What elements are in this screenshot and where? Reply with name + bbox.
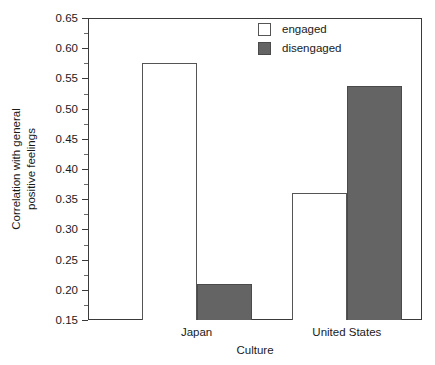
bar-japan-disengaged [197,284,252,320]
bar-japan-engaged [142,63,197,320]
y-axis-tick-label: 0.20 [56,281,78,299]
y-axis-tick-mark [82,320,88,321]
y-axis-tick-label: 0.60 [56,39,78,57]
y-axis-tick-label: 0.40 [56,160,78,178]
x-axis-tick-label-japan: Japan [181,324,212,340]
legend-label-engaged: engaged [282,22,327,37]
x-axis-tick-label-united-states: United States [312,324,381,340]
bars-layer [88,18,422,320]
x-axis-title: Culture [88,342,422,358]
bar-chart: 0.150.200.250.300.350.400.450.500.550.60… [0,0,435,365]
y-axis-tick-label: 0.50 [56,100,78,118]
legend-swatch-disengaged-icon [258,42,271,55]
y-axis-tick-label: 0.30 [56,220,78,238]
y-axis-tick-label: 0.25 [56,251,78,269]
y-axis-tick-label: 0.55 [56,69,78,87]
y-axis-tick-label: 0.35 [56,190,78,208]
y-axis-tick-label: 0.15 [56,311,78,329]
bar-united-states-engaged [292,193,347,320]
legend: engaged disengaged [258,20,388,58]
bar-united-states-disengaged [347,86,402,320]
legend-swatch-engaged-icon [258,23,271,36]
y-axis-tick-label: 0.45 [56,130,78,148]
y-axis-ticks: 0.150.200.250.300.350.400.450.500.550.60… [0,18,88,320]
legend-item-engaged: engaged [258,20,388,39]
legend-label-disengaged: disengaged [282,41,341,56]
x-axis-tick-labels: JapanUnited States [88,324,422,344]
legend-item-disengaged: disengaged [258,39,388,58]
y-axis-tick-label: 0.65 [56,9,78,27]
